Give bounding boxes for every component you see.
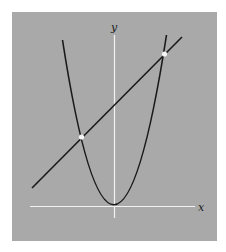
x-axis-label: x — [198, 201, 205, 214]
y-axis-label: y — [110, 21, 118, 34]
graph-svg: x y — [0, 0, 226, 252]
line-curve — [32, 37, 182, 188]
right-intersection-point — [162, 51, 167, 56]
left-intersection-point — [79, 134, 84, 139]
